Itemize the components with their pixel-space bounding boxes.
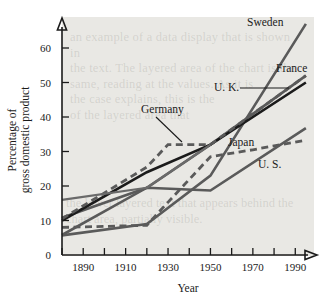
x-tick-label-1950: 1950 xyxy=(199,261,222,273)
y-tick-label-10: 10 xyxy=(40,215,52,227)
series-label-us: U. S. xyxy=(258,158,281,170)
y-tick-label-40: 40 xyxy=(40,111,52,123)
y-tick-label-20: 20 xyxy=(40,180,52,192)
y-tick-label-30: 30 xyxy=(40,146,52,158)
x-tick-label-1890: 1890 xyxy=(72,261,95,273)
y-axis-title-line2: gross domestic product xyxy=(19,86,32,193)
axes-group xyxy=(57,18,317,260)
y-axis-title-line1: Percentage of xyxy=(6,108,19,171)
x-tick-label-1970: 1970 xyxy=(242,261,265,273)
germany-leader-line xyxy=(156,117,182,142)
series-label-france: France xyxy=(276,62,307,74)
series-label-germany: Germany xyxy=(141,103,184,116)
y-tick-label-0: 0 xyxy=(46,249,52,261)
y-tick-label-60: 60 xyxy=(40,42,52,54)
series-group xyxy=(62,24,306,235)
x-tick-label-1930: 1930 xyxy=(157,261,180,273)
series-line-u-s xyxy=(62,128,306,235)
series-label-uk: U. K. xyxy=(214,81,239,93)
x-tick-group xyxy=(62,248,295,255)
y-tick-label-group: 0102030405060 xyxy=(40,42,52,261)
chart-svg: 0102030405060 189019101930195019701990 Y… xyxy=(0,0,327,300)
series-label-japan: Japan xyxy=(228,136,254,149)
y-tick-label-50: 50 xyxy=(40,77,52,89)
x-tick-label-1990: 1990 xyxy=(284,261,307,273)
series-label-sweden: Sweden xyxy=(247,16,284,28)
x-tick-label-1910: 1910 xyxy=(115,261,138,273)
chart-figure: an example of a data display that is sho… xyxy=(0,0,327,300)
y-tick-group xyxy=(62,48,69,221)
x-tick-label-group: 189019101930195019701990 xyxy=(72,261,307,273)
x-axis-title: Year xyxy=(177,282,198,294)
